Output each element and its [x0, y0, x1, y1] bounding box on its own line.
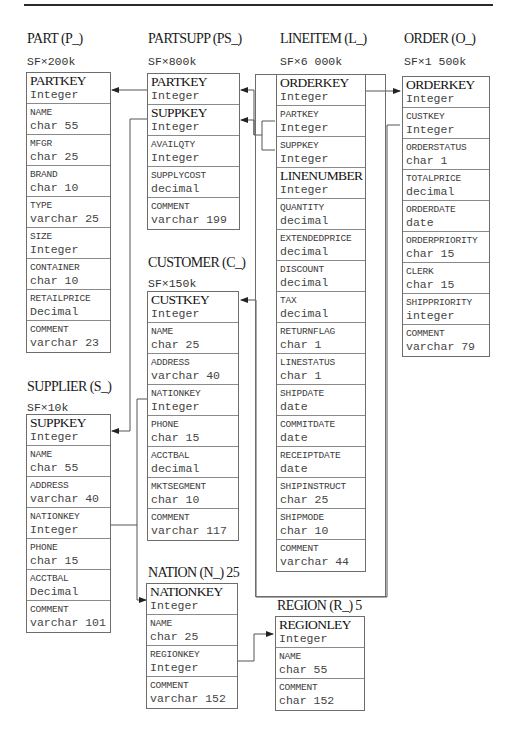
field-name: NAME [30, 446, 110, 461]
field-row: PARTKEYInteger [277, 106, 365, 137]
table-region: REGIONLEYInteger NAMEchar 55 COMMENTchar… [275, 616, 365, 711]
field-type: Integer [406, 92, 489, 107]
field-type: varchar 117 [151, 524, 238, 539]
field-name: SUPPKEY [280, 137, 365, 152]
field-name: SHIPDATE [280, 385, 365, 400]
field-name: SUPPKEY [30, 415, 110, 430]
field-name: SHIPINSTRUCT [280, 478, 365, 493]
field-name: LINESTATUS [280, 354, 365, 369]
table-title-customer: CUSTOMER (C_) [148, 255, 245, 271]
field-type: char 15 [151, 431, 238, 446]
field-row: TOTALPRICEdecimal [403, 170, 489, 201]
field-row: CLERKchar 15 [403, 263, 489, 294]
field-type: Integer [280, 183, 365, 198]
field-type: decimal [151, 462, 238, 477]
field-row: CUSTKEYInteger [403, 108, 489, 139]
field-type: varchar 101 [30, 616, 110, 631]
field-row: SHIPMODEchar 10 [277, 509, 365, 540]
field-row: COMMENTvarchar 79 [403, 325, 489, 356]
field-name: ORDERKEY [406, 77, 489, 92]
field-type: Integer [150, 599, 237, 614]
field-type: date [280, 400, 365, 415]
field-type: char 25 [280, 493, 365, 508]
field-row: NAMEchar 25 [148, 323, 238, 354]
field-row: ORDERDATEdate [403, 201, 489, 232]
field-type: decimal [280, 276, 365, 291]
field-type: varchar 23 [30, 336, 110, 351]
field-type: varchar 40 [151, 369, 238, 384]
field-row: ORDERKEYInteger [277, 75, 365, 106]
field-name: RETAILPRICE [30, 290, 110, 305]
field-name: REGIONKEY [150, 646, 237, 661]
field-row: NAMEchar 55 [27, 104, 110, 135]
field-row: RETAILPRICEDecimal [27, 290, 110, 321]
field-row: COMMENTchar 152 [276, 679, 364, 710]
field-type: Integer [280, 121, 365, 136]
field-type: decimal [406, 185, 489, 200]
field-name: TYPE [30, 197, 110, 212]
field-type: char 1 [280, 369, 365, 384]
field-type: char 25 [150, 630, 237, 645]
field-type: Integer [279, 632, 364, 647]
field-row: LINENUMBERInteger [277, 168, 365, 199]
field-type: varchar 40 [30, 492, 110, 507]
field-row: PHONEchar 15 [148, 416, 238, 447]
field-name: DISCOUNT [280, 261, 365, 276]
field-row: TAXdecimal [277, 292, 365, 323]
field-row: SIZEInteger [27, 228, 110, 259]
table-scale-part: SF×200k [27, 55, 75, 68]
field-name: COMMITDATE [280, 416, 365, 431]
field-name: ORDERDATE [406, 201, 489, 216]
field-name: MKTSEGMENT [151, 478, 238, 493]
field-type: decimal [280, 307, 365, 322]
field-name: NATIONKEY [150, 584, 237, 599]
field-type: Integer [151, 400, 238, 415]
table-title-partsupp: PARTSUPP (PS_) [148, 31, 242, 47]
field-row: ORDERSTATUSchar 1 [403, 139, 489, 170]
field-row: LINESTATUSchar 1 [277, 354, 365, 385]
field-type: varchar 25 [30, 212, 110, 227]
field-name: PARTKEY [30, 73, 110, 88]
field-name: NATIONKEY [151, 385, 238, 400]
field-row: SUPPKEYInteger [27, 415, 110, 446]
table-title-lineitem: LINEITEM (L_) [280, 31, 367, 47]
field-name: PHONE [30, 539, 110, 554]
field-type: varchar 199 [151, 213, 239, 228]
field-row: SHIPDATEdate [277, 385, 365, 416]
field-name: TOTALPRICE [406, 170, 489, 185]
field-name: ACCTBAL [151, 447, 238, 462]
field-type: Integer [30, 430, 110, 445]
field-name: COMMENT [30, 321, 110, 336]
field-type: char 10 [30, 181, 110, 196]
field-name: COMMENT [280, 540, 365, 555]
field-name: NAME [150, 615, 237, 630]
table-scale-partsupp: SF×800k [148, 55, 196, 68]
field-name: CONTAINER [30, 259, 110, 274]
field-name: PARTKEY [151, 74, 239, 89]
field-type: char 25 [151, 338, 238, 353]
table-title-supplier: SUPPLIER (S_) [27, 379, 111, 395]
field-name: ADDRESS [151, 354, 238, 369]
field-row: ACCTBALDecimal [27, 570, 110, 601]
field-row: QUANTITYdecimal [277, 199, 365, 230]
field-row: NAMEchar 55 [276, 648, 364, 679]
field-name: ORDERKEY [280, 75, 365, 90]
field-name: AVAILQTY [151, 136, 239, 151]
field-row: SUPPKEYInteger [148, 105, 239, 136]
table-supplier: SUPPKEYInteger NAMEchar 55 ADDRESSvarcha… [26, 414, 111, 633]
table-partsupp: PARTKEYInteger SUPPKEYInteger AVAILQTYIn… [147, 73, 240, 230]
field-name: RETURNFLAG [280, 323, 365, 338]
field-type: Integer [151, 89, 239, 104]
field-type: char 10 [280, 524, 365, 539]
field-type: Decimal [30, 585, 110, 600]
field-row: REGIONLEYInteger [276, 617, 364, 648]
field-type: char 55 [30, 461, 110, 476]
field-name: SIZE [30, 228, 110, 243]
field-row: REGIONKEYInteger [147, 646, 237, 677]
field-type: Integer [406, 123, 489, 138]
field-row: COMMENTvarchar 101 [27, 601, 110, 632]
field-type: date [406, 216, 489, 231]
field-type: Integer [151, 151, 239, 166]
field-row: NATIONKEYInteger [148, 385, 238, 416]
field-row: SUPPLYCOSTdecimal [148, 167, 239, 198]
